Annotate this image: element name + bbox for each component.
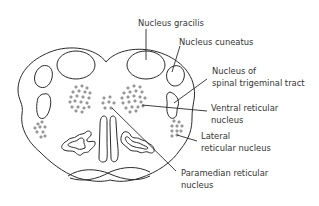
label-paramedian-reticular-line2: nucleus <box>181 180 213 190</box>
label-ventral-reticular-line2: nucleus <box>211 115 243 125</box>
ventral-reticular-nucleus-left <box>69 85 91 113</box>
lateral-reticular-nucleus-right <box>171 120 183 137</box>
label-lateral-reticular-line2: reticular nucleus <box>201 143 271 153</box>
leader-ventral-reticular <box>142 105 207 111</box>
leader-spinal-trigeminal <box>174 79 207 103</box>
nucleus-cuneatus-left <box>35 66 53 88</box>
label-nucleus-cuneatus: Nucleus cuneatus <box>179 37 253 47</box>
pyramid-right <box>110 116 118 162</box>
medulla-cross-section-diagram: Nucleus gracilis Nucleus cuneatus Nucleu… <box>0 0 319 206</box>
lateral-reticular-nucleus-left <box>34 121 46 138</box>
inferior-olive-left <box>62 131 95 155</box>
label-paramedian-reticular-line1: Paramedian reticular <box>181 168 269 178</box>
inferior-olive-left-inner <box>68 138 85 149</box>
label-spinal-trigeminal-line1: Nucleus of <box>212 66 257 76</box>
spinal-trigeminal-nucleus-right <box>167 92 179 118</box>
label-lateral-reticular-line1: Lateral <box>201 131 230 141</box>
spinal-trigeminal-nucleus-left <box>37 94 51 119</box>
nucleus-cuneatus-right <box>167 66 185 86</box>
label-nucleus-gracilis: Nucleus gracilis <box>138 18 204 28</box>
pyramid-left <box>99 116 107 162</box>
inferior-olive-right-inner <box>125 137 148 149</box>
paramedian-reticular-nucleus <box>102 96 115 109</box>
leader-paramedian-reticular <box>112 108 176 171</box>
nucleus-gracilis-left <box>57 51 95 79</box>
label-ventral-reticular-line1: Ventral reticular <box>211 103 279 113</box>
ventral-reticular-nucleus-right <box>121 85 146 113</box>
label-spinal-trigeminal-line2: spinal trigeminal tract <box>212 78 305 88</box>
